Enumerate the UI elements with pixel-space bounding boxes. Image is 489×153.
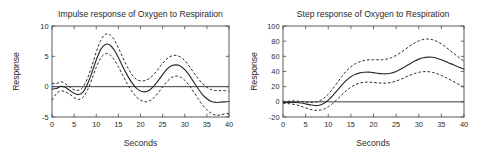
impulse-response-svg: Impulse response of Oxygen to Respiratio…	[0, 0, 245, 153]
x-tick-label: 10	[324, 120, 332, 129]
x-axis-label: Seconds	[356, 138, 389, 148]
x-tick-label: 30	[415, 120, 423, 129]
x-axis-label: Seconds	[124, 138, 157, 148]
y-tick-label: 0	[44, 82, 48, 91]
x-tick-label: 5	[304, 120, 308, 129]
x-tick-label: 0	[50, 120, 54, 129]
x-tick-label: 5	[72, 120, 76, 129]
tick-marks	[283, 26, 464, 117]
estimate-curve	[283, 57, 464, 106]
y-axis-label: Response	[249, 52, 259, 91]
upper-confidence-band	[52, 34, 229, 91]
y-tick-label: 100	[267, 22, 279, 31]
x-tick-label: 15	[347, 120, 355, 129]
y-tick-label: 10	[40, 22, 48, 31]
y-tick-label: 40	[271, 67, 279, 76]
y-tick-labels: -20020406080100	[267, 22, 279, 122]
y-tick-label: 5	[44, 52, 48, 61]
chart-title: Step response of Oxygen to Respiration	[297, 9, 450, 19]
x-tick-labels: 0510152025303540	[281, 120, 468, 129]
x-tick-label: 35	[203, 120, 211, 129]
plot-frame	[52, 26, 229, 117]
impulse-response-chart: Impulse response of Oxygen to Respiratio…	[0, 0, 245, 153]
y-tick-labels: -50510	[40, 22, 48, 122]
y-tick-label: 80	[271, 37, 279, 46]
x-tick-label: 25	[392, 120, 400, 129]
y-axis-label: Response	[11, 52, 21, 91]
step-response-chart: Step response of Oxygen to Respiration R…	[245, 0, 489, 153]
upper-confidence-band	[283, 39, 464, 102]
x-tick-label: 35	[437, 120, 445, 129]
estimate-curve	[52, 44, 229, 102]
y-tick-label: 20	[271, 82, 279, 91]
y-tick-label: -20	[269, 113, 280, 122]
y-tick-label: 60	[271, 52, 279, 61]
y-tick-label: 0	[275, 97, 279, 106]
chart-title: Impulse response of Oxygen to Respiratio…	[58, 9, 223, 19]
x-tick-label: 15	[114, 120, 122, 129]
x-tick-label: 20	[136, 120, 144, 129]
x-tick-label: 30	[181, 120, 189, 129]
lower-confidence-band	[52, 54, 229, 116]
x-tick-label: 10	[92, 120, 100, 129]
x-tick-labels: 0510152025303540	[50, 120, 233, 129]
x-tick-label: 25	[159, 120, 167, 129]
x-tick-label: 40	[460, 120, 468, 129]
tick-marks	[52, 26, 229, 117]
step-response-svg: Step response of Oxygen to Respiration R…	[245, 0, 489, 153]
y-tick-label: -5	[42, 113, 49, 122]
plot-frame	[283, 26, 464, 117]
x-tick-label: 40	[225, 120, 233, 129]
x-tick-label: 0	[281, 120, 285, 129]
x-tick-label: 20	[369, 120, 377, 129]
figure-container: Impulse response of Oxygen to Respiratio…	[0, 0, 489, 153]
